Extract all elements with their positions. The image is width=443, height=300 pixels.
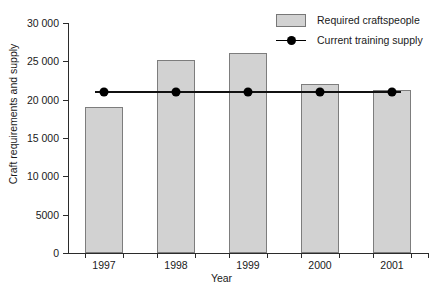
x-tick-label-1997: 1997	[92, 259, 115, 271]
supply-marker-2000	[316, 88, 325, 97]
supply-marker-2001	[388, 88, 397, 97]
x-tick-mark	[373, 253, 374, 258]
bar-2001	[373, 90, 411, 253]
y-tick-mark	[63, 23, 68, 24]
bar-1999	[229, 53, 267, 253]
x-tick-mark	[157, 253, 158, 258]
y-axis-title: Craft requirements and supply	[7, 0, 19, 234]
x-tick-label-1999: 1999	[236, 259, 259, 271]
supply-marker-1999	[244, 88, 253, 97]
y-tick-label: 20 000	[27, 94, 59, 105]
bar-1997	[85, 107, 123, 253]
y-tick-mark	[63, 215, 68, 216]
y-tick-label: 30 000	[27, 18, 59, 29]
y-tick-label: 5000	[36, 209, 59, 220]
y-tick-label: 10 000	[27, 171, 59, 182]
x-tick-label-1998: 1998	[164, 259, 187, 271]
x-tick-mark	[85, 253, 86, 258]
x-tick-mark	[229, 253, 230, 258]
x-tick-mark	[411, 253, 412, 258]
y-tick-mark	[63, 61, 68, 62]
supply-marker-1997	[100, 88, 109, 97]
y-axis-line	[68, 23, 69, 253]
x-tick-mark	[339, 253, 340, 258]
y-tick-label: 25 000	[27, 56, 59, 67]
x-tick-mark	[301, 253, 302, 258]
chart-container: Required craftspeople Current training s…	[0, 0, 443, 300]
x-tick-mark	[123, 253, 124, 258]
y-tick-label: 0	[53, 248, 59, 259]
x-tick-label-2001: 2001	[380, 259, 403, 271]
x-axis-title: Year	[0, 272, 443, 284]
plot-area: 0500010 00015 00020 00025 00030 000 1997…	[68, 23, 428, 253]
x-tick-mark	[195, 253, 196, 258]
supply-marker-1998	[172, 88, 181, 97]
y-tick-mark	[63, 138, 68, 139]
x-tick-mark	[428, 253, 429, 258]
x-axis-line	[68, 253, 428, 254]
y-tick-mark	[63, 253, 68, 254]
y-tick-label: 15 000	[27, 133, 59, 144]
y-tick-mark	[63, 100, 68, 101]
x-tick-label-2000: 2000	[308, 259, 331, 271]
bar-2000	[301, 84, 339, 253]
x-tick-mark	[267, 253, 268, 258]
y-tick-mark	[63, 176, 68, 177]
